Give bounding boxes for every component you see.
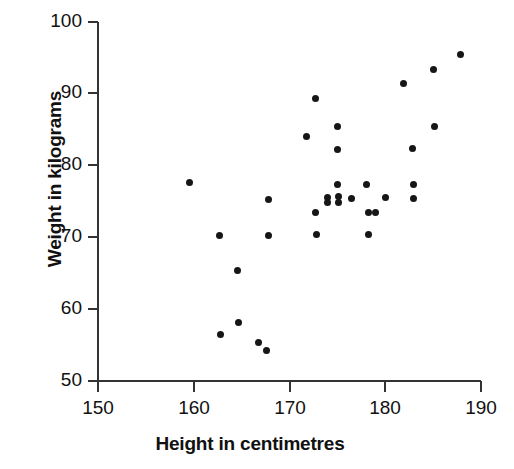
x-axis-title: Height in centimetres [0, 433, 500, 455]
data-point [235, 319, 242, 326]
data-point [263, 347, 270, 354]
data-point [365, 231, 372, 238]
y-tick-label-50: 50 [36, 369, 82, 391]
x-tick-label-190: 190 [451, 397, 511, 419]
x-tick-label-150: 150 [68, 397, 128, 419]
data-point [335, 199, 342, 206]
data-point [430, 66, 437, 73]
data-point [363, 181, 370, 188]
data-point [313, 231, 320, 238]
data-point [431, 123, 438, 130]
x-tick-label-160: 160 [164, 397, 224, 419]
y-axis-title: Weight in kilograms [44, 29, 66, 329]
x-tick-label-170: 170 [260, 397, 320, 419]
data-point [265, 196, 272, 203]
data-point [217, 331, 224, 338]
data-point [324, 199, 331, 206]
data-point [409, 145, 416, 152]
x-tick-label-180: 180 [355, 397, 415, 419]
data-point [334, 181, 341, 188]
scatter-plot-figure: 100 90 80 70 60 50 150 160 170 180 190 W… [0, 0, 514, 469]
